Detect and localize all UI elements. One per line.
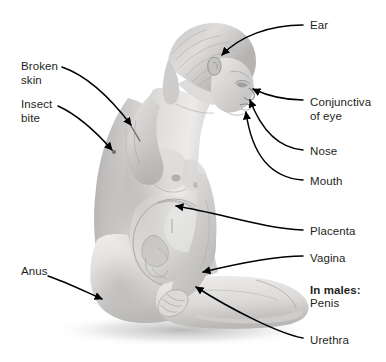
label-broken-skin: Broken skin bbox=[21, 60, 58, 87]
label-anus: Anus bbox=[21, 265, 48, 279]
callout-labels: Ear Broken skin Conjunctiva of eye Insec… bbox=[0, 0, 386, 362]
label-insect-bite: Insect bite bbox=[21, 98, 52, 125]
label-ear: Ear bbox=[310, 19, 328, 33]
label-in-males-lead: In males: bbox=[310, 284, 361, 296]
label-in-males-penis: Penis bbox=[310, 297, 361, 311]
label-mouth: Mouth bbox=[310, 175, 342, 189]
label-vagina: Vagina bbox=[310, 252, 346, 266]
label-placenta: Placenta bbox=[310, 225, 356, 239]
anatomy-diagram: Ear Broken skin Conjunctiva of eye Insec… bbox=[0, 0, 386, 362]
label-in-males: In males: Penis bbox=[310, 270, 361, 324]
label-conjunctiva-of-eye: Conjunctiva of eye bbox=[310, 96, 371, 123]
label-nose: Nose bbox=[310, 145, 337, 159]
label-urethra: Urethra bbox=[310, 334, 349, 348]
